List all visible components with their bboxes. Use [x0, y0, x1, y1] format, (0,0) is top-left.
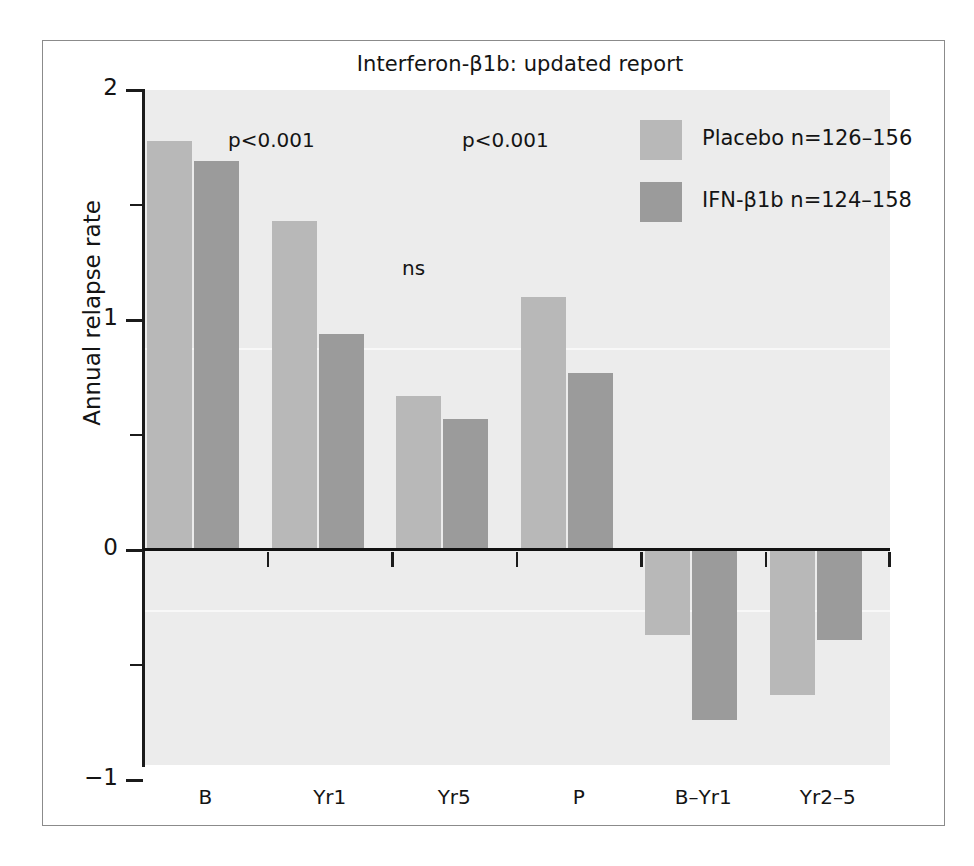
y-tick-major [126, 779, 143, 782]
x-tick [391, 552, 394, 567]
bar-ifn-1b-b [194, 161, 239, 550]
x-tick [267, 552, 270, 567]
significance-annotation-p2: p<0.001 [462, 128, 549, 152]
x-axis-label-yr1: Yr1 [268, 785, 393, 809]
y-tick-minor [130, 664, 143, 666]
legend-swatch-placebo [640, 120, 682, 160]
y-tick-minor [130, 434, 143, 436]
bar-placebo-b [147, 141, 192, 550]
legend-label-placebo: Placebo n=126–156 [702, 126, 912, 150]
y-tick-major [126, 89, 143, 92]
bar-placebo-b-yr1 [645, 550, 690, 635]
x-tick [640, 552, 643, 567]
bar-ifn-1b-b-yr1 [692, 550, 737, 720]
y-tick-major [126, 319, 143, 322]
x-axis-label-yr2-5: Yr2–5 [766, 785, 891, 809]
x-axis-label-b: B [143, 785, 268, 809]
significance-annotation-p1: p<0.001 [228, 128, 315, 152]
legend-swatch-ifn [640, 182, 682, 222]
y-tick-major [126, 549, 143, 552]
y-tick-label: 0 [58, 534, 118, 560]
significance-annotation-ns: ns [402, 256, 425, 280]
y-tick-label: 2 [58, 74, 118, 100]
bar-placebo-yr2-5 [770, 550, 815, 695]
x-axis-label-b-yr1: B–Yr1 [641, 785, 766, 809]
x-tick [765, 552, 768, 567]
bar-placebo-yr5 [396, 396, 441, 550]
bar-placebo-p [521, 297, 566, 550]
bar-placebo-yr1 [272, 221, 317, 550]
x-tick [888, 552, 891, 567]
bar-ifn-1b-yr2-5 [817, 550, 862, 640]
scan-artifact-line [143, 348, 890, 350]
figure-container: Interferon-β1b: updated report 210−1BYr1… [0, 0, 974, 866]
bar-ifn-1b-p [568, 373, 613, 550]
legend-label-ifn: IFN-β1b n=124–158 [702, 188, 912, 212]
y-tick-minor [130, 204, 143, 206]
y-axis-title: Annual relapse rate [79, 163, 105, 463]
y-tick-label: −1 [58, 764, 118, 790]
x-axis-label-p: P [517, 785, 642, 809]
bar-ifn-1b-yr5 [443, 419, 488, 550]
bar-ifn-1b-yr1 [319, 334, 364, 550]
zero-baseline [142, 548, 890, 551]
chart-title: Interferon-β1b: updated report [140, 52, 900, 76]
x-tick [516, 552, 519, 567]
x-axis-label-yr5: Yr5 [392, 785, 517, 809]
